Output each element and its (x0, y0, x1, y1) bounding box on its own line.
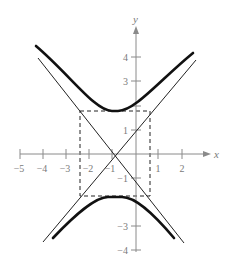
y-tick-label: 4 (123, 52, 128, 63)
hyperbola-upper-branch (36, 46, 193, 111)
y-axis-arrow-icon (133, 26, 139, 34)
x-tick-label: −2 (83, 163, 94, 174)
x-tick-label: 1 (156, 163, 161, 174)
y-tick-label: −3 (117, 221, 128, 232)
y-tick-label: −4 (117, 245, 128, 256)
y-tick-label: −1 (117, 173, 128, 184)
hyperbola-lower-branch (53, 197, 174, 238)
y-tick-label: 3 (123, 76, 128, 87)
x-tick-label: −1 (105, 163, 116, 174)
x-axis-arrow-icon (203, 151, 211, 157)
x-axis-label: x (213, 148, 219, 160)
x-tick-label: −3 (60, 163, 71, 174)
x-tick-label: 2 (180, 163, 185, 174)
asymptote-line (38, 58, 184, 243)
x-tick-label: −4 (37, 163, 48, 174)
y-axis-label: y (132, 13, 138, 25)
y-tick-label: 1 (123, 125, 128, 136)
x-tick-label: −5 (14, 163, 25, 174)
hyperbola-graph: x y −5 −4 −3 −2 −1 1 2 4 3 1 −1 −3 −4 (0, 0, 229, 269)
x-tick-labels: −5 −4 −3 −2 −1 1 2 (14, 163, 185, 174)
